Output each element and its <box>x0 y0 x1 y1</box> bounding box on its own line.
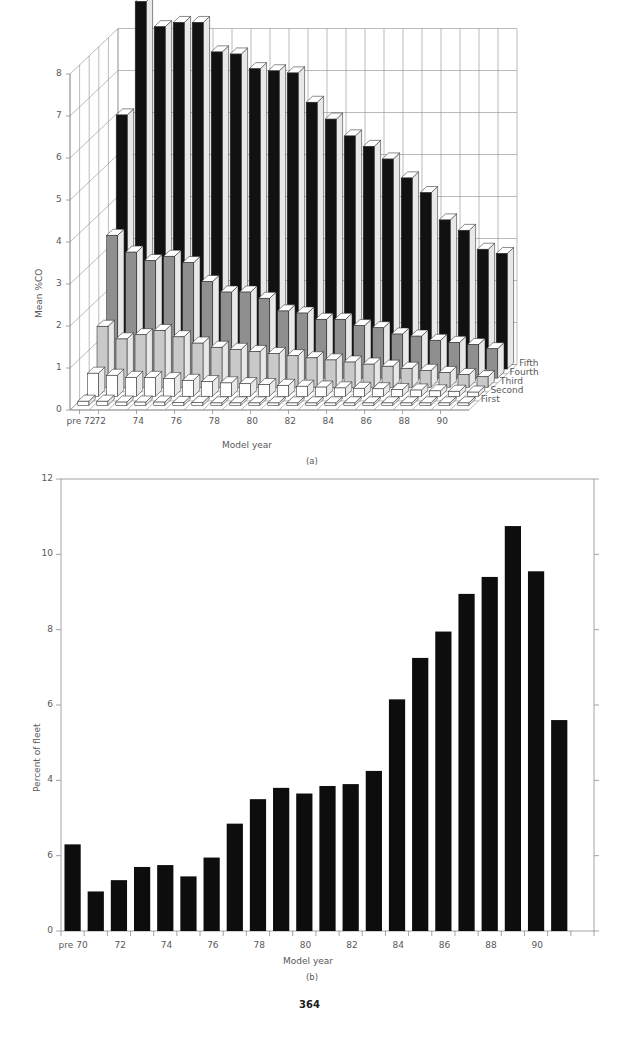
figure-a-series-label: Third <box>500 376 523 386</box>
bar-82 <box>366 771 382 931</box>
figure-b-bars <box>64 526 567 931</box>
bar-81 <box>343 784 359 931</box>
bar-88 <box>505 526 521 931</box>
bar-78 <box>273 788 289 931</box>
figure-b-y-tick-label: 10 <box>39 548 53 558</box>
bar-79 <box>296 794 312 931</box>
figure-a-y-tick-label: 1 <box>56 362 62 372</box>
figure-b-x-tick-label: 88 <box>485 940 496 950</box>
bar-84 <box>412 658 428 931</box>
figure-a-x-tick-label: 86 <box>361 416 372 426</box>
figure-b-y-tick-label: 8 <box>39 624 53 634</box>
figure-b-x-tick-label: 82 <box>346 940 357 950</box>
figure-a-y-tick-label: 5 <box>56 194 62 204</box>
figure-b-y-tick-label: 12 <box>39 473 53 483</box>
bar-89 <box>528 571 544 931</box>
figure-b-x-tick-label: 78 <box>253 940 264 950</box>
bar-first-75 <box>154 396 171 405</box>
bar-first-82 <box>287 397 304 406</box>
bar-first-89 <box>420 397 437 406</box>
figure-a-x-tick-label: 74 <box>133 416 144 426</box>
figure-b-bar-chart: 064681012 pre 7072747678808284868890 Per… <box>0 462 628 982</box>
bar-77 <box>250 799 266 931</box>
bar-pre 70 <box>64 844 80 931</box>
bar-first-87 <box>382 397 399 406</box>
bar-first-77 <box>192 396 209 405</box>
figure-a-y-tick-label: 3 <box>56 278 62 288</box>
figure-b-x-axis-title: Model year <box>283 956 333 966</box>
bar-first-72 <box>97 395 114 405</box>
bar-first-pre 72 <box>78 395 95 405</box>
bar-second-73 <box>125 371 142 396</box>
bar-first-79 <box>230 397 247 406</box>
bar-second-74 <box>144 371 161 396</box>
bar-second-75 <box>163 373 180 397</box>
bar-76 <box>227 824 243 931</box>
page-folio: 364 <box>299 999 320 1010</box>
figure-b-caption: (b) <box>306 972 318 982</box>
figure-a-bars <box>78 0 514 405</box>
figure-a-x-tick-label: 88 <box>399 416 410 426</box>
figure-b-y-tick-label: 0 <box>39 925 53 935</box>
figure-b-x-tick-label: 86 <box>439 940 450 950</box>
bar-90 <box>551 720 567 931</box>
figure-a-y-tick-label: 0 <box>56 404 62 414</box>
figure-b-x-tick-label: 90 <box>532 940 543 950</box>
figure-a-x-tick-label: 84 <box>323 416 334 426</box>
bar-second-72 <box>106 369 123 396</box>
bar-second-76 <box>182 374 199 396</box>
figure-a-x-tick-label: 90 <box>437 416 448 426</box>
figure-a-series-label: Fifth <box>519 358 538 368</box>
bar-83 <box>389 699 405 931</box>
figure-a-x-tick-label: 72 <box>95 416 106 426</box>
bar-74 <box>180 876 196 931</box>
figure-a-x-tick-label: 82 <box>285 416 296 426</box>
figure-a-y-tick-label: 7 <box>56 110 62 120</box>
bar-first-81 <box>268 397 285 406</box>
bar-first-76 <box>173 396 190 405</box>
figure-b-x-tick-label: 74 <box>161 940 172 950</box>
figure-a-series-label: Fourth <box>510 367 539 377</box>
bar-first-83 <box>306 397 323 406</box>
bar-second-90 <box>448 385 465 396</box>
bar-first-78 <box>211 397 228 406</box>
figure-a-y-tick-label: 6 <box>56 152 62 162</box>
bar-first-90 <box>439 397 456 406</box>
figure-a-y-tick-label: 8 <box>56 68 62 78</box>
figure-a-y-tick-label: 2 <box>56 320 62 330</box>
figure-b-y-axis-title: Percent of fleet <box>32 723 42 792</box>
figure-a-series-label: First <box>481 394 500 404</box>
bar-first-91 <box>458 397 475 406</box>
bar-first-88 <box>401 397 418 406</box>
figure-a-3d-bar-chart: 012345678 pre 7272747678808284868890 Fir… <box>0 0 628 470</box>
figure-b-x-tick-label: 76 <box>207 940 218 950</box>
textbook-page: 012345678 pre 7272747678808284868890 Fir… <box>0 0 628 1039</box>
figure-a-y-tick-label: 4 <box>56 236 62 246</box>
bar-75 <box>204 858 220 931</box>
figure-b-x-tick-label: 84 <box>393 940 404 950</box>
bar-80 <box>319 786 335 931</box>
bar-first-73 <box>116 396 133 405</box>
figure-a-x-tick-label: 80 <box>247 416 258 426</box>
figure-a-series-label: Second <box>490 385 523 395</box>
figure-b-x-tick-label: pre 70 <box>59 940 88 950</box>
bar-87 <box>482 577 498 931</box>
figure-a-x-axis-title: Model year <box>222 440 272 450</box>
figure-b-y-tick-label: 6 <box>39 699 53 709</box>
bar-72 <box>134 867 150 931</box>
figure-b-canvas <box>0 462 628 982</box>
bar-73 <box>157 865 173 931</box>
bar-70 <box>88 891 104 931</box>
bar-first-85 <box>344 397 361 406</box>
bar-first-84 <box>325 397 342 406</box>
bar-86 <box>458 594 474 931</box>
figure-b-x-tick-label: 80 <box>300 940 311 950</box>
figure-a-x-tick-label: pre 72 <box>67 416 96 426</box>
figure-a-x-tick-label: 76 <box>171 416 182 426</box>
figure-b-y-tick-label: 6 <box>39 850 53 860</box>
figure-a-y-axis-title: Mean %CO <box>34 269 44 318</box>
bar-first-74 <box>135 396 152 405</box>
figure-a-x-tick-label: 78 <box>209 416 220 426</box>
bar-85 <box>435 632 451 931</box>
bar-first-86 <box>363 397 380 406</box>
